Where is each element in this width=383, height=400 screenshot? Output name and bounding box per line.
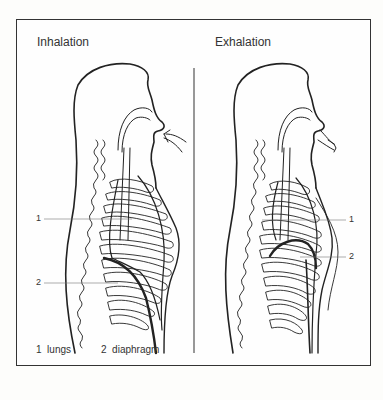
callout-diaphragm-exhalation: 2 (349, 251, 354, 261)
breathing-illustration (0, 0, 383, 400)
legend-item-lungs: 1 lungs (36, 344, 71, 355)
legend-item-diaphragm: 2 diaphragm (101, 344, 159, 355)
callout-diaphragm-inhalation: 2 (36, 277, 41, 287)
inhalation-figure (44, 64, 186, 353)
callout-lungs-inhalation: 1 (36, 213, 41, 223)
callout-lungs-exhalation: 1 (349, 214, 354, 224)
exhalation-figure (226, 64, 346, 353)
